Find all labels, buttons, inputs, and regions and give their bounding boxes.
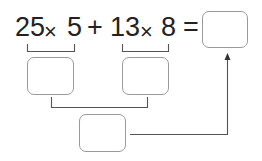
connector-lines <box>0 0 262 161</box>
arrow-head-icon <box>225 53 231 60</box>
arrow-line <box>130 58 228 135</box>
bracket-13x8 <box>123 44 169 52</box>
bracket-25x5 <box>28 44 75 52</box>
bracket-sum <box>52 97 148 108</box>
